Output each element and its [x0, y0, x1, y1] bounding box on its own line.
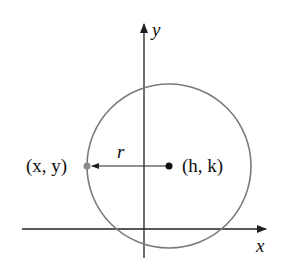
y-axis-label: y [150, 19, 161, 40]
circle-diagram: y x r (x, y) (h, k) [0, 0, 295, 277]
center-label: (h, k) [182, 155, 223, 177]
center-point [166, 163, 173, 170]
radius-label: r [117, 141, 125, 162]
point-label: (x, y) [26, 155, 67, 177]
x-axis-label: x [255, 235, 265, 256]
point-on-circle [84, 163, 91, 170]
